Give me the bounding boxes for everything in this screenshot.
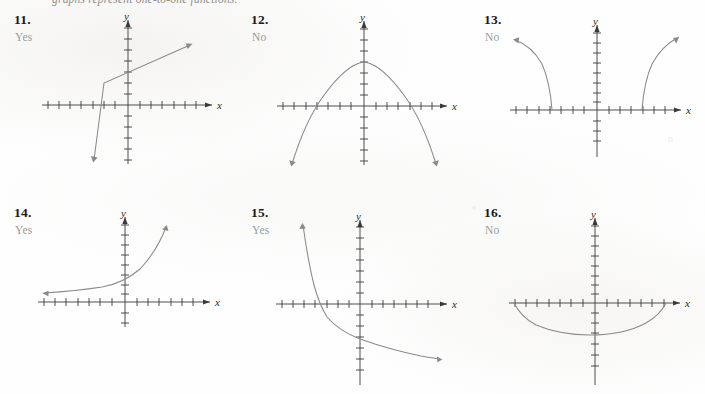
y-axis-label: y bbox=[123, 12, 129, 22]
exercise-16: 16. No bbox=[484, 205, 702, 390]
exercise-instruction-text: graphs represent one-to-one functions. bbox=[52, 0, 282, 7]
x-axis-label: x bbox=[451, 298, 457, 310]
graph-15-plot: x y bbox=[251, 205, 466, 390]
exercise-14: 14. Yes bbox=[14, 205, 229, 330]
y-axis-label: y bbox=[592, 15, 598, 27]
exercise-12: 12. No bbox=[251, 12, 466, 172]
x-axis-label: x bbox=[451, 100, 457, 112]
graph-11-plot: x y bbox=[14, 12, 229, 172]
graph-14-plot: x y bbox=[14, 205, 229, 330]
scan-speck-icon bbox=[472, 206, 476, 210]
graph-16-plot: x y bbox=[484, 205, 702, 390]
exercise-13: 13. No bbox=[484, 12, 702, 172]
y-axis-label: y bbox=[590, 208, 596, 220]
x-axis-label: x bbox=[216, 99, 222, 111]
y-axis-label: y bbox=[359, 12, 365, 23]
exercise-15: 15. Yes bbox=[251, 205, 466, 390]
scanned-textbook-page: graphs represent one-to-one functions. u… bbox=[0, 0, 705, 394]
graph-13-plot: x y bbox=[484, 12, 702, 172]
graph-12-plot: x y bbox=[251, 12, 466, 172]
x-axis-label: x bbox=[214, 296, 220, 308]
y-axis-label: y bbox=[120, 207, 126, 219]
exercise-11: 11. Yes bbox=[14, 12, 229, 172]
y-axis-label: y bbox=[355, 210, 361, 222]
x-axis-label: x bbox=[684, 297, 690, 309]
x-axis-label: x bbox=[685, 104, 691, 116]
